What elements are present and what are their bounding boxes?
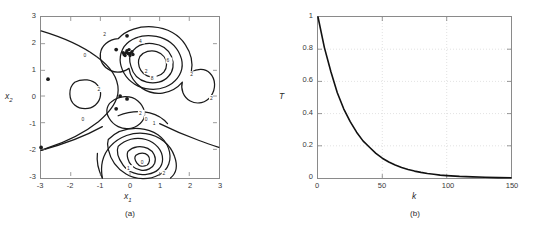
panel-a-xlabel-sub: 1 (128, 197, 131, 203)
svg-text:1: 1 (127, 166, 130, 171)
panel-b-xtick-3: 150 (501, 182, 523, 190)
panel-a-xlabel: x1 (124, 192, 132, 203)
svg-text:2: 2 (210, 96, 213, 101)
panel-a-ytick-5: -2 (20, 146, 36, 154)
panel-b-ytick-2: 0.6 (291, 76, 313, 84)
svg-text:4: 4 (139, 39, 142, 44)
svg-text:2: 2 (139, 111, 142, 116)
panel-b-ticks (318, 17, 511, 178)
panel-a-caption: (a) (110, 209, 150, 218)
panel-a-ylabel: x2 (5, 92, 13, 103)
svg-text:2: 2 (145, 69, 148, 74)
panel-b-ytick-4: 0.2 (291, 141, 313, 149)
panel-b-ytick-3: 0.4 (291, 109, 313, 117)
panel-a-ylabel-sub: 2 (9, 97, 12, 103)
panel-a-ytick-3: 0 (22, 93, 36, 101)
svg-text:0: 0 (82, 117, 85, 122)
panel-a-ytick-0: 3 (22, 12, 36, 20)
figure-container: 2 4 6 8 2 2 2 0 0 2 2 0 1 0 1 2 (0, 0, 534, 226)
svg-text:2: 2 (190, 72, 193, 77)
panel-b-ytick-1: 0.8 (291, 44, 313, 52)
svg-text:2: 2 (163, 171, 166, 176)
svg-text:0: 0 (145, 117, 148, 122)
panel-a-xtick-6: 3 (212, 182, 228, 190)
svg-text:0: 0 (141, 160, 144, 165)
panel-b-ylabel: T (279, 92, 284, 101)
panel-a-xtick-2: -1 (92, 182, 108, 190)
svg-text:0: 0 (84, 53, 87, 58)
panel-a-xtick-1: -2 (62, 182, 78, 190)
panel-b-xlabel: k (412, 192, 416, 201)
panel-b-ytick-0: 1 (295, 12, 313, 20)
panel-a-xtick-0: -3 (32, 182, 48, 190)
panel-a-plot-frame: 2 4 6 8 2 2 2 0 0 2 2 0 1 0 1 2 (40, 16, 220, 179)
svg-text:6: 6 (167, 58, 170, 63)
panel-a-ytick-1: 2 (22, 39, 36, 47)
panel-a: 2 4 6 8 2 2 2 0 0 2 2 0 1 0 1 2 (0, 0, 267, 226)
panel-a-contours: 2 4 6 8 2 2 2 0 0 2 2 0 1 0 1 2 (41, 17, 219, 178)
panel-b-ytick-5: 0 (295, 173, 313, 181)
panel-b-xtick-0: 0 (309, 182, 325, 190)
panel-a-ytick-2: 1 (22, 66, 36, 74)
svg-text:1: 1 (153, 121, 156, 126)
panel-a-ytick-6: -3 (20, 173, 36, 181)
decay-curve (318, 17, 511, 178)
panel-b-xtick-2: 100 (437, 182, 459, 190)
panel-b-plot-frame (317, 16, 512, 179)
svg-text:2: 2 (103, 32, 106, 37)
panel-b-caption: (b) (395, 209, 435, 218)
panel-b-xtick-1: 50 (373, 182, 391, 190)
panel-b: 1 0.8 0.6 0.4 0.2 0 0 50 100 150 T k (b) (267, 0, 534, 226)
panel-b-chart (318, 17, 511, 178)
panel-a-xtick-5: 2 (182, 182, 198, 190)
panel-b-gridlines (318, 17, 511, 178)
panel-a-xtick-4: 1 (152, 182, 168, 190)
svg-text:8: 8 (151, 76, 154, 81)
panel-a-xtick-3: 0 (122, 182, 138, 190)
panel-a-ytick-4: -1 (20, 120, 36, 128)
svg-text:2: 2 (97, 87, 100, 92)
